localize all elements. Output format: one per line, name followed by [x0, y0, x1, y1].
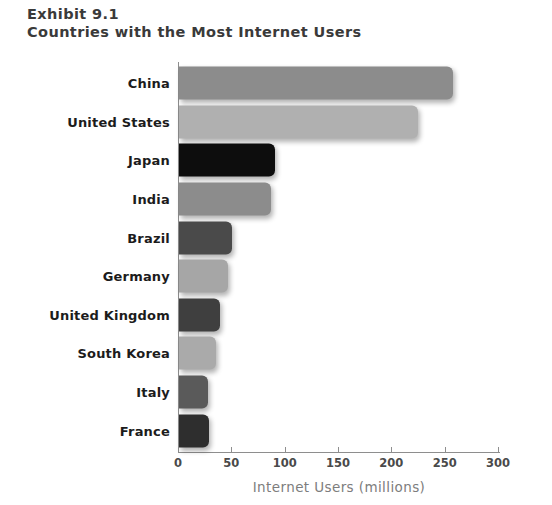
bar-row: Germany	[0, 257, 552, 296]
x-tick-label: 100	[273, 456, 297, 470]
x-axis-line	[178, 452, 500, 453]
bar-south-korea[interactable]	[179, 337, 216, 370]
bar-united-kingdom[interactable]	[179, 298, 220, 331]
x-tick-label: 50	[223, 456, 239, 470]
bar-row: Japan	[0, 141, 552, 180]
category-label-south-korea: South Korea	[77, 346, 170, 361]
bar-united-states[interactable]	[179, 105, 418, 138]
category-label-united-states: United States	[67, 114, 170, 129]
category-label-japan: Japan	[128, 153, 170, 168]
category-label-brazil: Brazil	[127, 230, 170, 245]
bar-japan[interactable]	[179, 144, 275, 177]
x-axis-title: Internet Users (millions)	[178, 479, 500, 495]
category-label-india: India	[132, 192, 170, 207]
bar-china[interactable]	[179, 67, 453, 100]
category-label-italy: Italy	[136, 385, 170, 400]
bar-row: Italy	[0, 373, 552, 412]
bar-row: China	[0, 64, 552, 103]
bar-germany[interactable]	[179, 260, 228, 293]
bar-row: India	[0, 180, 552, 219]
x-tick-label: 150	[326, 456, 350, 470]
x-tick-label: 0	[174, 456, 182, 470]
category-label-united-kingdom: United Kingdom	[49, 307, 170, 322]
bar-row: United Kingdom	[0, 296, 552, 335]
category-label-china: China	[128, 76, 170, 91]
bar-row: Brazil	[0, 218, 552, 257]
bar-italy[interactable]	[179, 376, 208, 409]
x-tick-label: 300	[486, 456, 510, 470]
x-tick-label: 200	[379, 456, 403, 470]
bar-brazil[interactable]	[179, 221, 232, 254]
category-label-france: France	[120, 423, 170, 438]
x-tick-label: 250	[433, 456, 457, 470]
bar-row: France	[0, 411, 552, 450]
bar-india[interactable]	[179, 183, 271, 216]
bar-row: United States	[0, 103, 552, 142]
bar-row: South Korea	[0, 334, 552, 373]
bar-france[interactable]	[179, 414, 209, 447]
bar-chart: 050100150200250300 ChinaUnited StatesJap…	[0, 0, 552, 505]
category-label-germany: Germany	[103, 269, 170, 284]
